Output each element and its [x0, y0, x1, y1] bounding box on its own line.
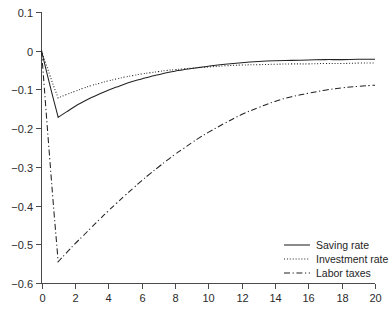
chart-legend: Saving rateInvestment rateLabor taxes: [284, 239, 389, 279]
y-tick-label: 0: [27, 46, 33, 58]
x-tick-label: 16: [302, 292, 314, 304]
data-series-group: [42, 51, 376, 262]
y-tick-label: −0.6: [11, 278, 33, 290]
x-tick-label: 14: [269, 292, 281, 304]
x-tick-label: 20: [369, 292, 381, 304]
x-tick-label: 12: [236, 292, 248, 304]
series-line-investment-rate: [42, 51, 376, 98]
y-tick-label: 0.1: [18, 7, 33, 19]
x-tick-label: 18: [336, 292, 348, 304]
series-line-saving-rate: [42, 51, 376, 118]
x-tick-label: 10: [202, 292, 214, 304]
y-tick-labels: 0.10−0.1−0.2−0.3−0.4−0.5−0.6: [11, 7, 33, 290]
x-tick-labels: 02468101214161820: [39, 292, 381, 304]
y-tick-label: −0.1: [11, 84, 33, 96]
x-tick-label: 0: [39, 292, 45, 304]
x-tick-label: 8: [172, 292, 178, 304]
y-tick-label: −0.3: [11, 162, 33, 174]
series-line-labor-taxes: [42, 51, 376, 262]
legend-label-saving-rate: Saving rate: [316, 239, 369, 251]
y-tick-label: −0.5: [11, 239, 33, 251]
y-tick-marks: [36, 13, 42, 284]
x-tick-marks: [43, 284, 376, 290]
x-tick-label: 6: [139, 292, 145, 304]
y-tick-label: −0.4: [11, 201, 33, 213]
legend-label-investment-rate: Investment rate: [316, 253, 389, 265]
legend-label-labor-taxes: Labor taxes: [316, 267, 371, 279]
impulse-response-chart: 0.10−0.1−0.2−0.3−0.4−0.5−0.6 02468101214…: [0, 0, 392, 314]
x-tick-label: 2: [72, 292, 78, 304]
x-tick-label: 4: [105, 292, 111, 304]
chart-figure: 0.10−0.1−0.2−0.3−0.4−0.5−0.6 02468101214…: [0, 0, 392, 314]
y-tick-label: −0.2: [11, 123, 33, 135]
